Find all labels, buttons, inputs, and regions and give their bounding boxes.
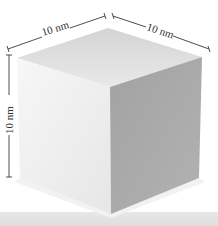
cube-figure: 10 nm 10 nm 10 nm bbox=[0, 0, 218, 226]
dimension-label-vertical: 10 nm bbox=[3, 106, 15, 134]
dimension-vertical: 10 nm bbox=[3, 55, 15, 177]
dimension-label-top-left: 10 nm bbox=[40, 18, 71, 38]
dimension-label-top-right: 10 nm bbox=[145, 20, 176, 40]
cube-diagram: 10 nm 10 nm 10 nm bbox=[0, 0, 218, 226]
